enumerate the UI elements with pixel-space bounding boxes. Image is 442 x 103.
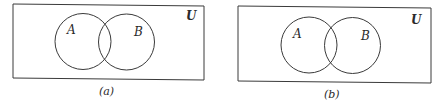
caption-panel-b: (b) <box>324 88 340 101</box>
panel-b: A B U (b) <box>238 6 431 101</box>
set-b-label-panel-b: B <box>360 29 370 43</box>
venn-diagram-figure: A B U (a) A B U (b) <box>0 0 442 103</box>
universe-rect-b <box>238 6 431 83</box>
set-b-circle-panel-a <box>99 14 155 70</box>
set-a-circle-panel-b <box>281 17 337 73</box>
caption-panel-a: (a) <box>99 85 114 98</box>
set-a-label-panel-b: A <box>292 27 302 41</box>
universe-rect-a <box>13 4 204 80</box>
set-b-circle-panel-b <box>325 18 381 74</box>
universe-label-panel-b: U <box>411 13 423 27</box>
set-b-label-panel-a: B <box>133 25 143 39</box>
set-a-circle-panel-a <box>55 14 111 70</box>
universe-label-panel-a: U <box>186 9 198 23</box>
panel-a: A B U (a) <box>13 4 204 98</box>
set-a-label-panel-a: A <box>66 23 76 37</box>
